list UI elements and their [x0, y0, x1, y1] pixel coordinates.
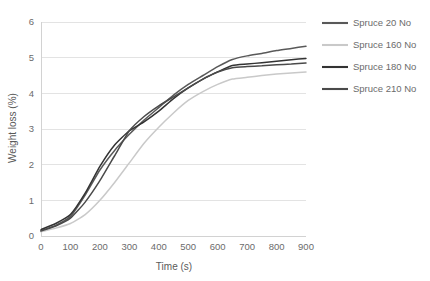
x-tick-label-600: 600: [210, 241, 226, 252]
y-axis-title: Weight loss (%): [7, 93, 18, 163]
x-tick-label-500: 500: [180, 241, 196, 252]
x-tick-label-300: 300: [121, 241, 137, 252]
y-tick-label-3: 3: [29, 123, 34, 134]
legend-label-0: Spruce 20 No: [353, 17, 411, 28]
y-tick-label-4: 4: [29, 88, 34, 99]
legend-label-3: Spruce 210 No: [353, 83, 416, 94]
x-tick-label-900: 900: [298, 241, 314, 252]
x-tick-label-0: 0: [38, 241, 43, 252]
series-line-3: [41, 63, 306, 231]
series-line-2: [41, 58, 306, 229]
legend-label-1: Spruce 160 No: [353, 39, 416, 50]
line-chart: 0123456 0100200300400500600700800900 Spr…: [0, 0, 430, 281]
y-tick-label-1: 1: [29, 195, 34, 206]
x-tick-label-800: 800: [269, 241, 285, 252]
y-tick-label-0: 0: [29, 230, 34, 241]
y-tick-label-2: 2: [29, 159, 34, 170]
legend-label-2: Spruce 180 No: [353, 61, 416, 72]
y-tick-labels: 0123456: [29, 16, 34, 241]
x-tick-labels: 0100200300400500600700800900: [38, 241, 314, 252]
series-line-0: [41, 46, 306, 230]
gridlines: [41, 22, 306, 236]
x-tick-label-700: 700: [239, 241, 255, 252]
x-tick-label-200: 200: [92, 241, 108, 252]
x-tick-label-100: 100: [63, 241, 79, 252]
data-series-group: [41, 46, 306, 231]
x-tick-label-400: 400: [151, 241, 167, 252]
x-axis-title: Time (s): [156, 261, 192, 272]
y-tick-label-6: 6: [29, 16, 34, 27]
chart-container: 0123456 0100200300400500600700800900 Spr…: [0, 0, 430, 281]
legend: Spruce 20 NoSpruce 160 NoSpruce 180 NoSp…: [322, 17, 416, 94]
y-tick-label-5: 5: [29, 52, 34, 63]
